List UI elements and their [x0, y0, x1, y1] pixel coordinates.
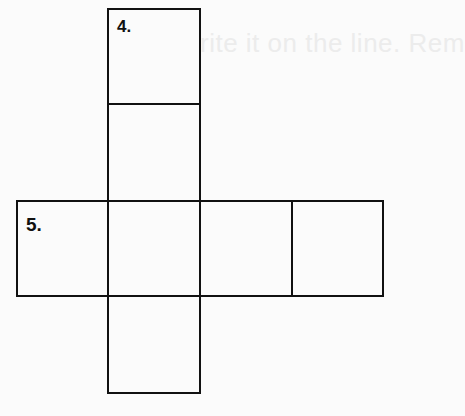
- net-square-bottom: [107, 295, 201, 394]
- background-bleed-text: rite it on the line. Rem: [200, 28, 465, 59]
- net-square-center: [107, 200, 201, 297]
- net-square-right-2: [291, 200, 384, 297]
- net-square-right-1: [199, 200, 293, 297]
- label-4: 4.: [117, 17, 131, 37]
- net-square-upper-middle: [107, 103, 201, 202]
- label-5: 5.: [26, 214, 42, 236]
